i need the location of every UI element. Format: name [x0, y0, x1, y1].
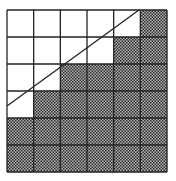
empty-cell	[60, 10, 87, 37]
empty-cell	[34, 37, 61, 64]
shaded-cell	[87, 145, 114, 172]
empty-cell	[87, 37, 114, 64]
shaded-cell	[34, 91, 61, 118]
staircase-grid-diagram	[0, 0, 176, 181]
shaded-cell	[87, 64, 114, 91]
shaded-cell	[7, 145, 34, 172]
shaded-cell	[140, 118, 167, 145]
shaded-cell	[114, 64, 141, 91]
shaded-cell	[114, 37, 141, 64]
empty-cell	[34, 10, 61, 37]
shaded-cell	[60, 145, 87, 172]
shaded-cell	[140, 91, 167, 118]
shaded-cell	[114, 145, 141, 172]
empty-cell	[7, 10, 34, 37]
shaded-cell	[60, 64, 87, 91]
shaded-cell	[140, 37, 167, 64]
shaded-cell	[34, 145, 61, 172]
empty-cell	[7, 37, 34, 64]
empty-cell	[114, 10, 141, 37]
shaded-cell	[60, 91, 87, 118]
shaded-cell	[87, 91, 114, 118]
empty-cell	[7, 64, 34, 91]
empty-cell	[87, 10, 114, 37]
shaded-cell	[140, 64, 167, 91]
shaded-cell	[140, 145, 167, 172]
shaded-cell	[140, 10, 167, 37]
shaded-cell	[114, 91, 141, 118]
shaded-cell	[34, 118, 61, 145]
shaded-cell	[87, 118, 114, 145]
shaded-cell	[60, 118, 87, 145]
shaded-cell	[7, 118, 34, 145]
shaded-cell	[114, 118, 141, 145]
empty-cell	[7, 91, 34, 118]
